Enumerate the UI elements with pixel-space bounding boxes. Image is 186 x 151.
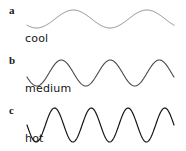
wave-label-hot: hot	[25, 133, 44, 144]
wave-figure: a cool b medium c hot	[0, 0, 186, 151]
wave-label-cool: cool	[25, 33, 48, 44]
panel-b: b medium	[0, 50, 186, 100]
panel-letter-c: c	[9, 105, 14, 116]
panel-letter-b: b	[9, 55, 15, 66]
wave-hot-path	[27, 108, 174, 142]
wave-label-medium: medium	[25, 83, 71, 94]
panel-c: c hot	[0, 100, 186, 150]
panel-a: a cool	[0, 0, 186, 50]
wave-cool-path	[27, 10, 174, 28]
panel-letter-a: a	[9, 5, 15, 16]
